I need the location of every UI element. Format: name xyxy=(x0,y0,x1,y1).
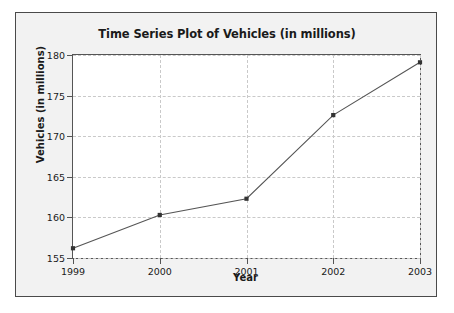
x-axis-title: Year xyxy=(72,272,419,283)
x-axis-tick xyxy=(333,258,334,264)
y-axis-tick-label: 165 xyxy=(47,171,65,182)
y-axis-tick-label: 160 xyxy=(47,212,65,223)
series-line-vehicles xyxy=(73,55,420,258)
data-point-marker xyxy=(418,60,422,64)
gridline-vertical xyxy=(420,55,421,258)
y-axis-tick-label: 170 xyxy=(47,131,65,142)
x-axis-tick xyxy=(160,258,161,264)
y-axis-tick-label: 155 xyxy=(47,253,65,264)
x-axis-tick xyxy=(73,258,74,264)
data-point-marker xyxy=(158,213,162,217)
y-axis-tick-label: 175 xyxy=(47,90,65,101)
y-axis-tick-label: 180 xyxy=(47,50,65,61)
data-point-marker xyxy=(244,197,248,201)
y-axis-title: Vehicles (in millions) xyxy=(35,35,46,175)
data-point-marker xyxy=(71,246,75,250)
x-axis-tick xyxy=(247,258,248,264)
chart-title: Time Series Plot of Vehicles (in million… xyxy=(16,27,438,41)
data-point-marker xyxy=(331,113,335,117)
figure-frame: Time Series Plot of Vehicles (in million… xyxy=(15,12,437,297)
x-axis-tick xyxy=(420,258,421,264)
plot-area: 155160165170175180 19992000200120022003 xyxy=(72,54,421,259)
figure-canvas: Time Series Plot of Vehicles (in million… xyxy=(0,0,454,313)
